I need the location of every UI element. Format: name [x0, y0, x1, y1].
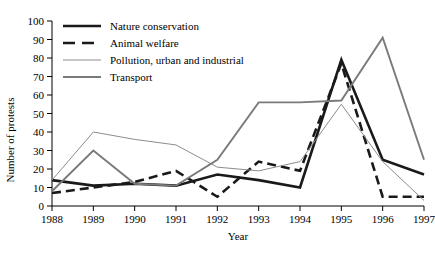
chart-legend: Nature conservationAnimal welfarePolluti… [63, 20, 244, 83]
legend-label: Nature conservation [110, 20, 199, 32]
x-tick-label: 1994 [289, 213, 312, 225]
legend-label: Animal welfare [110, 37, 179, 49]
legend-label: Pollution, urban and industrial [110, 54, 244, 66]
x-tick-label: 1992 [206, 213, 228, 225]
x-tick-label: 1989 [82, 213, 105, 225]
x-tick-label: 1991 [165, 213, 187, 225]
x-tick-label: 1996 [372, 213, 395, 225]
y-tick-label: 20 [33, 163, 45, 175]
y-tick-label: 30 [33, 145, 45, 157]
x-tick-label: 1997 [413, 213, 435, 225]
y-tick-label: 10 [33, 182, 45, 194]
series-line [52, 60, 424, 188]
x-tick-label: 1988 [41, 213, 64, 225]
chart-canvas: Number of protests 010203040506070809010… [0, 0, 435, 256]
x-tick-label: 1993 [248, 213, 271, 225]
y-axis-ticks: 0102030405060708090100 [28, 15, 53, 212]
y-tick-label: 80 [33, 52, 45, 64]
y-tick-label: 90 [33, 34, 45, 46]
legend-label: Transport [110, 71, 152, 83]
y-tick-label: 70 [33, 71, 45, 83]
y-tick-label: 50 [33, 108, 45, 120]
y-tick-label: 0 [39, 200, 45, 212]
y-tick-label: 60 [33, 89, 45, 101]
x-tick-label: 1990 [124, 213, 147, 225]
y-axis-title: Number of protests [4, 98, 16, 183]
y-tick-label: 100 [28, 15, 45, 27]
y-tick-label: 40 [33, 126, 45, 138]
x-tick-label: 1995 [330, 213, 353, 225]
x-axis-ticks: 1988198919901991199219931994199519961997 [41, 206, 435, 225]
line-chart: Number of protests 010203040506070809010… [0, 0, 435, 256]
x-axis-title: Year [228, 230, 249, 242]
